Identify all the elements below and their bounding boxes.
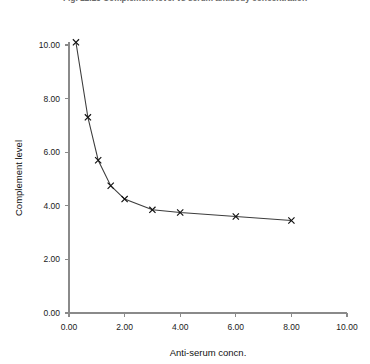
x-tick-label: 4.00 bbox=[172, 322, 189, 332]
x-axis-ticks bbox=[69, 313, 347, 317]
y-tick-label: 8.00 bbox=[43, 94, 60, 104]
x-tick-label: 6.00 bbox=[228, 322, 245, 332]
y-tick-label: 2.00 bbox=[43, 254, 60, 264]
y-axis-tick-labels: 0.002.004.006.008.0010.00 bbox=[39, 40, 61, 318]
y-tick-label: 6.00 bbox=[43, 147, 60, 157]
x-axis-tick-labels: 0.002.004.006.008.0010.00 bbox=[61, 322, 358, 332]
x-axis-title: Anti-serum concn. bbox=[170, 347, 247, 358]
y-tick-label: 4.00 bbox=[43, 201, 60, 211]
data-point-marker bbox=[108, 183, 114, 189]
x-tick-label: 8.00 bbox=[283, 322, 300, 332]
data-series-line bbox=[76, 42, 291, 220]
chart-container: Fig. 12.13 Complement level vs serum ant… bbox=[0, 0, 370, 364]
data-point-marker bbox=[122, 196, 128, 202]
y-tick-label: 10.00 bbox=[39, 40, 61, 50]
data-series-markers bbox=[73, 39, 295, 223]
y-tick-label: 0.00 bbox=[43, 308, 60, 318]
y-axis-title: Complement level bbox=[13, 140, 24, 216]
x-tick-label: 2.00 bbox=[116, 322, 133, 332]
x-tick-label: 0.00 bbox=[61, 322, 78, 332]
line-chart-plot: 0.002.004.006.008.0010.00 0.002.004.006.… bbox=[0, 0, 370, 364]
y-axis-ticks bbox=[65, 45, 69, 313]
x-tick-label: 10.00 bbox=[336, 322, 358, 332]
